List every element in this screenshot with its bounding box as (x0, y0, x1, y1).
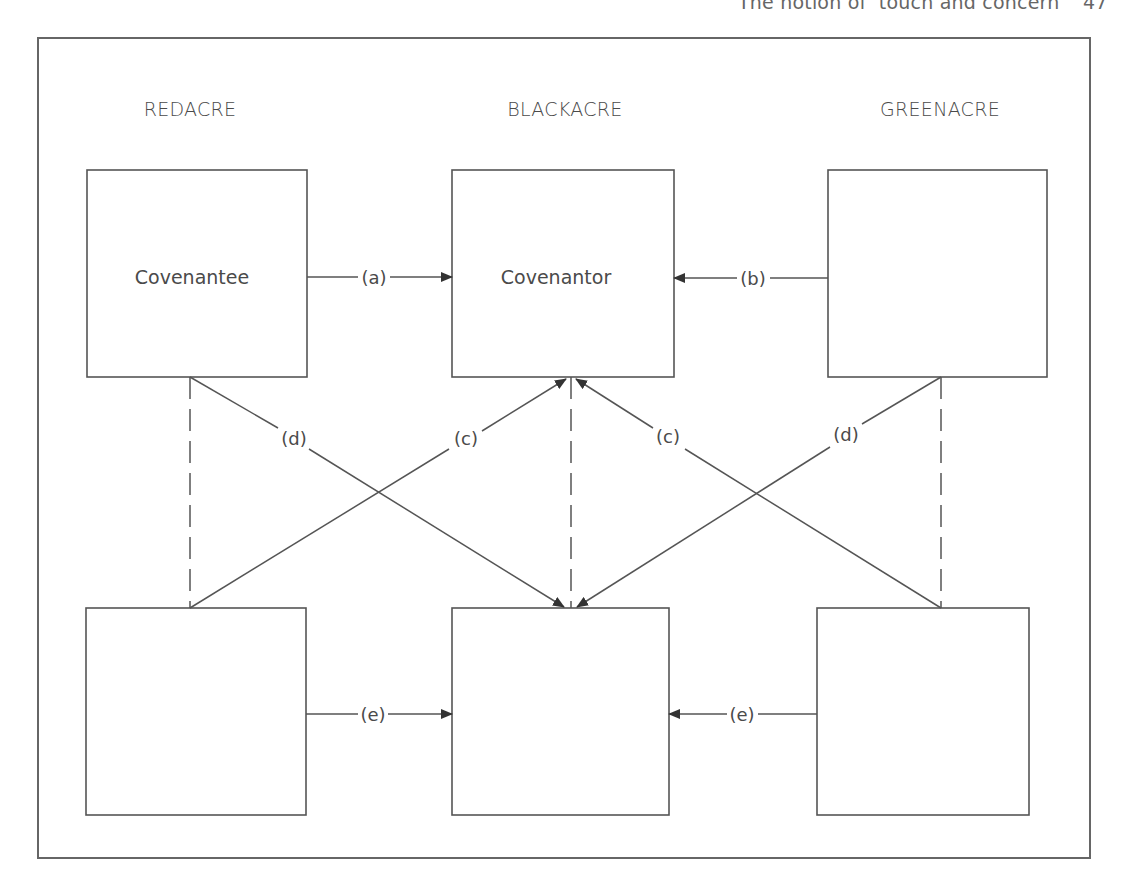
edge-label-e-right: (e) (729, 704, 754, 725)
edge-label-c-right: (c) (656, 426, 680, 447)
region-label-blackacre: BLACKACRE (507, 98, 622, 120)
edge-label-a: (a) (361, 267, 386, 288)
edge-label-d-right: (d) (833, 424, 858, 445)
box-greenacre-bottom (817, 608, 1029, 815)
edge-label-c-left: (c) (454, 428, 478, 449)
box-greenacre-top (828, 170, 1047, 377)
covenant-diagram: REDACRE BLACKACRE GREENACRE Covenantee C… (0, 0, 1128, 896)
box-blackacre-bottom (452, 608, 669, 815)
edge-label-d-left: (d) (281, 428, 306, 449)
edge-label-e-left: (e) (360, 704, 385, 725)
box-redacre-bottom (86, 608, 306, 815)
region-label-redacre: REDACRE (144, 98, 237, 120)
edge-label-b: (b) (740, 268, 765, 289)
region-label-greenacre: GREENACRE (880, 98, 1000, 120)
covenantee-label: Covenantee (135, 266, 249, 288)
covenantor-label: Covenantor (501, 266, 612, 288)
